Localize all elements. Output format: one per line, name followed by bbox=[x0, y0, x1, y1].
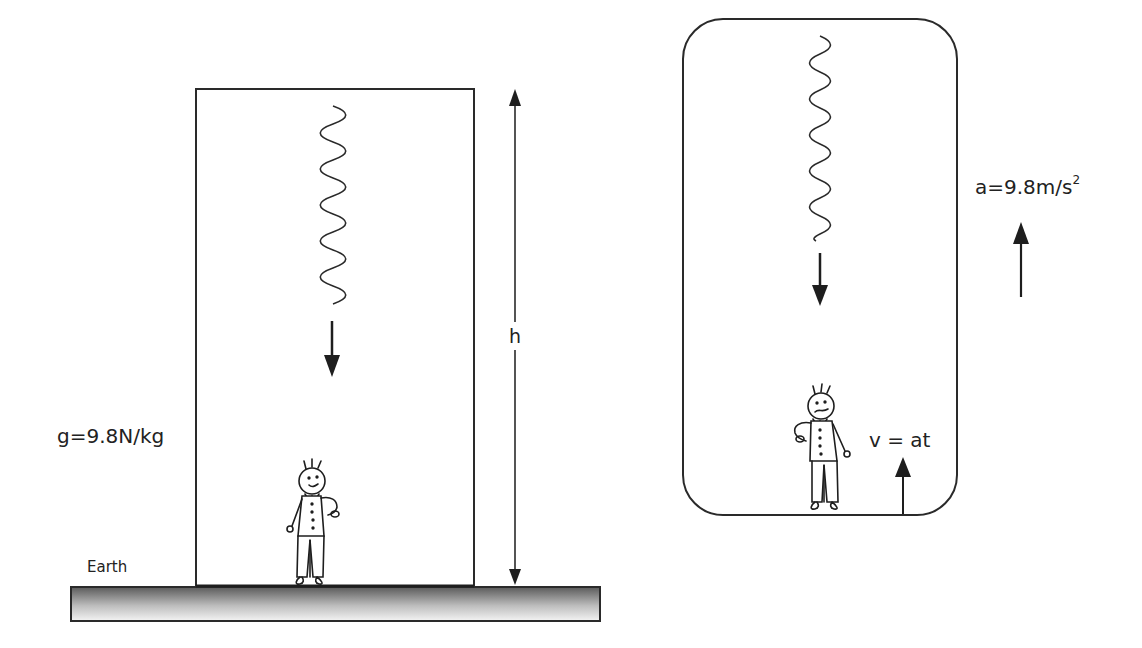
earth-ground bbox=[71, 587, 600, 621]
falling-trail-squiggle bbox=[320, 106, 346, 304]
acceleration-label-base: a=9.8m/s bbox=[975, 175, 1072, 199]
right-scene: a=9.8m/s2 v = at bbox=[683, 19, 1080, 515]
height-label: h bbox=[509, 325, 521, 347]
velocity-arrow-up-icon bbox=[895, 457, 911, 514]
acceleration-arrow-up-icon bbox=[1013, 222, 1029, 297]
earth-label: Earth bbox=[87, 558, 127, 576]
left-scene: h g=9.8N/kg Earth bbox=[57, 89, 600, 621]
acceleration-label: a=9.8m/s2 bbox=[975, 173, 1080, 199]
falling-arrow-down-icon-right bbox=[812, 253, 828, 306]
acceleration-label-exponent: 2 bbox=[1072, 173, 1080, 187]
observer-stick-figure-right bbox=[795, 384, 850, 509]
falling-trail-squiggle-right bbox=[810, 36, 831, 241]
velocity-label: v = at bbox=[869, 428, 931, 452]
gravity-label: g=9.8N/kg bbox=[57, 424, 164, 448]
equivalence-diagram: h g=9.8N/kg Earth bbox=[0, 0, 1142, 648]
observer-stick-figure-left bbox=[287, 459, 339, 584]
falling-arrow-down-icon bbox=[324, 321, 340, 377]
